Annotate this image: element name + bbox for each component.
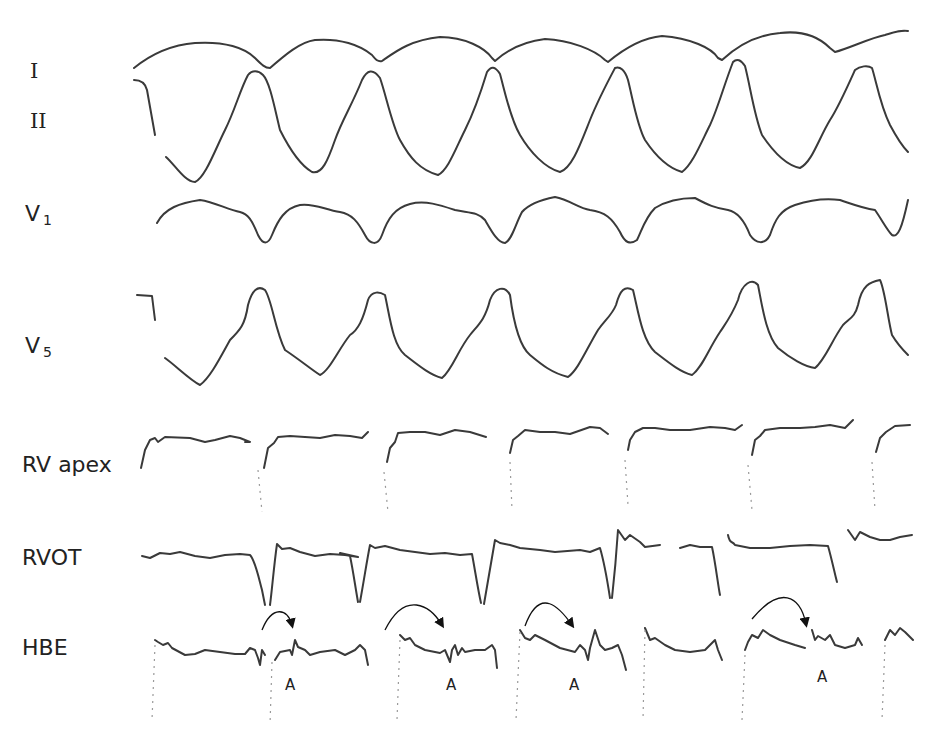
trace-lead-V5 (137, 280, 908, 385)
annotation-A: A (446, 676, 456, 694)
arrow-icon (525, 603, 572, 626)
annotation-A: A (817, 668, 827, 686)
trace-lead-hbe (155, 628, 913, 670)
arrow-icon (385, 605, 442, 630)
trace-lead-rvot (142, 530, 912, 605)
annotation-A: A (285, 676, 295, 694)
trace-lead-II (134, 60, 908, 182)
ecg-traces (0, 0, 938, 746)
arrow-icon (262, 612, 292, 630)
rv-apex-deflections (258, 460, 875, 512)
arrow-icon (752, 598, 806, 624)
hbe-deflections (152, 630, 885, 725)
trace-lead-V1 (157, 197, 908, 243)
trace-lead-rv-apex (141, 420, 910, 468)
annotation-A: A (569, 676, 579, 694)
trace-lead-I (134, 31, 908, 68)
